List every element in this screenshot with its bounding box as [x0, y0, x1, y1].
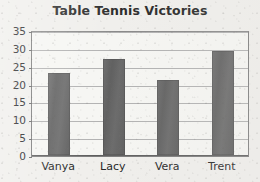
y-tick-mark [29, 157, 32, 158]
y-tick-label: 25 [2, 62, 26, 72]
y-tick-mark [29, 50, 32, 51]
bar-lacy [103, 59, 125, 155]
y-tick-mark [29, 32, 32, 33]
y-tick-label: 10 [2, 115, 26, 125]
y-tick-label: 5 [2, 133, 26, 143]
y-tick-mark [29, 103, 32, 104]
y-tick-mark [29, 86, 32, 87]
bar-vanya [48, 73, 70, 155]
x-tick-label-lacy: Lacy [83, 160, 143, 173]
x-tick-label-trent: Trent [192, 160, 252, 173]
y-tick-mark [29, 139, 32, 140]
bar-chart: Table Tennis Victories 05101520253035 Va… [0, 0, 260, 182]
x-axis-line [32, 155, 248, 156]
y-tick-label: 20 [2, 80, 26, 90]
plot-area [31, 31, 249, 157]
y-tick-label: 15 [2, 97, 26, 107]
y-tick-label: 0 [2, 151, 26, 161]
bar-trent [212, 51, 234, 155]
y-tick-label: 35 [2, 26, 26, 36]
y-tick-mark [29, 121, 32, 122]
bar-vera [157, 80, 179, 155]
x-tick-label-vanya: Vanya [28, 160, 88, 173]
gridline [32, 32, 248, 33]
y-tick-label: 30 [2, 44, 26, 54]
y-tick-mark [29, 68, 32, 69]
chart-title: Table Tennis Victories [0, 3, 260, 19]
x-tick-label-vera: Vera [137, 160, 197, 173]
